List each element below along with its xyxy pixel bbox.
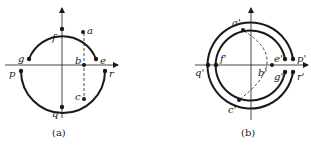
label-b-prime: b' xyxy=(258,67,267,78)
panel-a-caption: (a) xyxy=(52,127,66,138)
point-f xyxy=(60,27,64,31)
panel-a-upper-arc xyxy=(29,36,96,59)
point-b xyxy=(82,63,86,67)
point-r xyxy=(103,69,107,73)
label-q-prime: q' xyxy=(195,67,204,78)
label-c: c xyxy=(75,91,81,102)
label-r-prime: r' xyxy=(297,71,305,82)
point-f-prime xyxy=(214,63,218,67)
label-g: g xyxy=(18,53,24,64)
point-a xyxy=(81,30,85,34)
point-a-prime xyxy=(241,28,245,32)
diagram-canvas: a b c e f g p q r (a) a' b' c' e' xyxy=(0,0,311,148)
label-a: a xyxy=(87,25,93,36)
label-q: q xyxy=(52,108,58,119)
label-e-prime: e' xyxy=(274,53,283,64)
panel-a: a b c e f g p q r (a) xyxy=(5,8,118,138)
point-g xyxy=(27,57,31,61)
label-e: e xyxy=(100,55,106,66)
label-c-prime: c' xyxy=(228,104,236,115)
point-r-prime xyxy=(291,70,295,74)
point-p xyxy=(19,69,23,73)
point-q xyxy=(60,105,64,109)
point-g-prime xyxy=(283,70,287,74)
point-c-prime xyxy=(237,98,241,102)
point-e xyxy=(94,57,98,61)
label-f-prime: f' xyxy=(219,53,226,64)
label-r: r xyxy=(109,68,115,79)
label-p-prime: p' xyxy=(297,53,306,64)
point-p-prime xyxy=(291,57,295,61)
point-q-prime xyxy=(206,63,210,67)
label-a-prime: a' xyxy=(232,17,241,28)
panel-b: a' b' c' e' f' g' p' q' r' (b) xyxy=(195,8,308,138)
label-p: p xyxy=(9,68,16,79)
label-g-prime: g' xyxy=(274,71,283,82)
point-c xyxy=(82,97,86,101)
panel-b-inner-ring xyxy=(216,31,285,101)
point-e-prime xyxy=(283,57,287,61)
label-b: b xyxy=(75,55,81,66)
panel-b-caption: (b) xyxy=(241,127,255,138)
